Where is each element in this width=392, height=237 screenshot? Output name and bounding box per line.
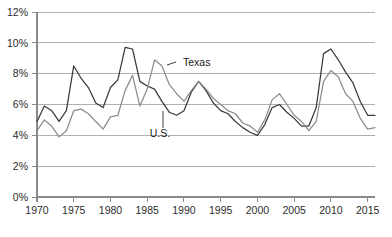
x-tick-label-1980: 1980 — [99, 204, 123, 216]
y-axis-tickmarks — [32, 12, 37, 197]
series-line-texas — [37, 60, 375, 137]
x-axis-tickmarks — [37, 197, 368, 202]
x-tick-label-2010: 2010 — [319, 204, 343, 216]
y-tick-label-0: 0% — [13, 191, 28, 203]
x-tick-label-2000: 2000 — [246, 204, 270, 216]
y-tick-label-12: 12% — [7, 6, 28, 18]
x-tick-label-1995: 1995 — [209, 204, 233, 216]
x-tick-label-1975: 1975 — [62, 204, 86, 216]
y-tick-label-4: 4% — [13, 129, 28, 141]
y-tick-label-8: 8% — [13, 67, 28, 79]
x-tick-label-1990: 1990 — [172, 204, 196, 216]
unemployment-rate-line-chart: 0%2%4%6%8%10%12% 19701975198019851990199… — [0, 0, 392, 237]
x-tick-label-2015: 2015 — [356, 204, 380, 216]
x-tick-label-2005: 2005 — [282, 204, 306, 216]
y-axis-tick-labels: 0%2%4%6%8%10%12% — [7, 6, 28, 203]
series-label-texas: Texas — [183, 56, 210, 68]
x-tick-label-1985: 1985 — [136, 204, 160, 216]
annotation-leader-lines — [163, 62, 176, 128]
y-tick-label-2: 2% — [13, 160, 28, 172]
chart-canvas: 0%2%4%6%8%10%12% 19701975198019851990199… — [0, 0, 392, 237]
y-tick-label-6: 6% — [13, 98, 28, 110]
x-axis-tick-labels: 1970197519801985199019952000200520102015 — [25, 204, 379, 216]
leader-line-texas — [167, 62, 176, 65]
x-tick-label-1970: 1970 — [25, 204, 49, 216]
series-label-us: U.S. — [150, 127, 170, 139]
y-tick-label-10: 10% — [7, 37, 28, 49]
